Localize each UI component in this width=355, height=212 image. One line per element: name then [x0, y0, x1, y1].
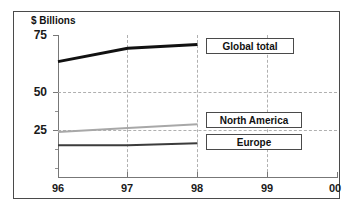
series-layer	[0, 0, 355, 212]
legend-label-north-america[interactable]: North America	[206, 112, 302, 128]
series-line-north-america	[58, 124, 198, 132]
legend-label-global-total[interactable]: Global total	[206, 38, 294, 54]
legend-label-europe[interactable]: Europe	[206, 134, 302, 150]
chart-figure: $ Billions 75 50 25 96 97 98 99 00 Globa…	[0, 0, 355, 212]
series-line-europe	[58, 143, 198, 145]
series-line-global-total	[58, 45, 198, 62]
